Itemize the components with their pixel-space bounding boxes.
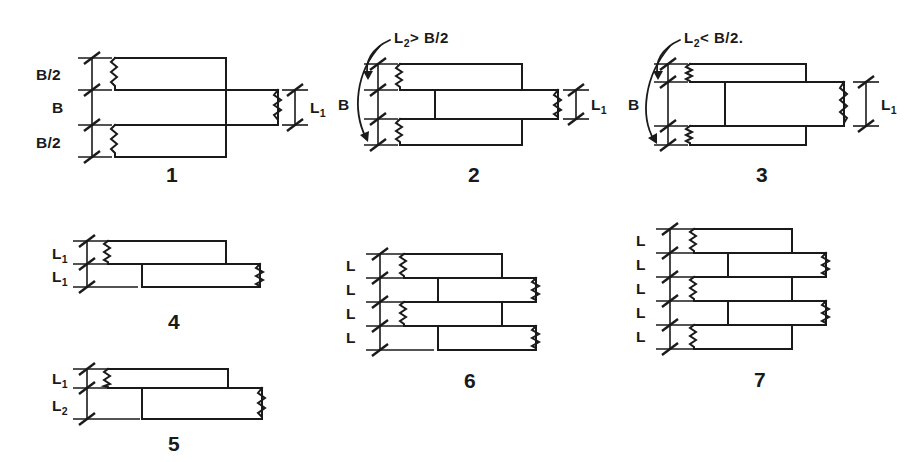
leader-arrows-2 bbox=[358, 40, 390, 142]
bar-middle-2 bbox=[435, 90, 561, 119]
dimension-L1-right-3 bbox=[853, 76, 879, 132]
bar-top-2 bbox=[396, 64, 522, 90]
label-L-6-4: L bbox=[346, 329, 356, 346]
label-L1-5: L1 bbox=[52, 370, 68, 390]
bar-bottom-4 bbox=[142, 264, 263, 287]
label-L-7-4: L bbox=[636, 304, 646, 321]
label-b: B bbox=[52, 99, 64, 116]
label-L-7-1: L bbox=[636, 232, 646, 249]
label-b-half-bottom: B/2 bbox=[36, 134, 61, 151]
label-L1-4-top: L1 bbox=[52, 245, 68, 265]
bar-6-3 bbox=[400, 302, 502, 326]
label-L-6-3: L bbox=[346, 305, 356, 322]
diagram-2: L2> B/2 B L1 2 bbox=[330, 10, 625, 205]
label-L-6-2: L bbox=[346, 281, 356, 298]
label-L-7-2: L bbox=[636, 256, 646, 273]
label-L1-2: L1 bbox=[591, 96, 607, 116]
bar-6-2 bbox=[438, 278, 539, 302]
label-L1: L1 bbox=[310, 99, 326, 119]
bar-7-4 bbox=[728, 301, 829, 325]
label-b-2: B bbox=[338, 96, 350, 113]
bar-bottom-3 bbox=[686, 126, 806, 145]
bar-7-5 bbox=[690, 325, 792, 349]
dimension-stack-left bbox=[78, 52, 112, 163]
diagram-7: L L L L L 7 bbox=[620, 215, 910, 410]
label-b-3: B bbox=[628, 96, 640, 113]
bar-bottom bbox=[111, 125, 226, 157]
diagram-number-7: 7 bbox=[754, 368, 766, 391]
diagram-5: L1 L2 5 bbox=[30, 355, 305, 460]
bar-top-4 bbox=[104, 241, 226, 264]
dimension-stack-left-5 bbox=[73, 363, 140, 425]
diagram-number-3: 3 bbox=[756, 163, 768, 186]
diagram-sheet: B/2 B B/2 L1 1 L2> B/2 B bbox=[0, 0, 921, 462]
dimension-stack-left-7 bbox=[656, 223, 694, 355]
bar-7-2 bbox=[728, 253, 829, 277]
label-L2-5: L2 bbox=[52, 397, 68, 417]
diagram-number-6: 6 bbox=[464, 369, 476, 392]
label-L-6-1: L bbox=[346, 257, 356, 274]
bar-6-1 bbox=[400, 254, 502, 278]
label-b-half-top: B/2 bbox=[36, 66, 61, 83]
dimension-L1-right bbox=[282, 84, 308, 131]
diagram-number-4: 4 bbox=[168, 310, 180, 333]
label-L-7-5: L bbox=[636, 328, 646, 345]
bar-bottom-2 bbox=[396, 119, 522, 145]
bar-bottom-5 bbox=[142, 388, 265, 419]
diagram-number-1: 1 bbox=[166, 163, 178, 186]
bar-middle bbox=[226, 90, 281, 125]
diagram-number-5: 5 bbox=[168, 432, 180, 455]
bar-top-3 bbox=[686, 64, 806, 82]
condition-label-3: L2< B/2. bbox=[684, 29, 743, 49]
diagram-4: L1 L1 4 bbox=[30, 225, 305, 355]
bar-top bbox=[111, 58, 226, 90]
label-L1-4-bottom: L1 bbox=[52, 268, 68, 288]
diagram-1: B/2 B B/2 L1 1 bbox=[30, 40, 320, 205]
diagram-6: L L L L 6 bbox=[330, 240, 610, 420]
bar-top-5 bbox=[104, 369, 228, 388]
diagram-3: L2< B/2. B L1 3 bbox=[620, 10, 915, 205]
bar-6-4 bbox=[438, 326, 539, 350]
condition-label-2: L2> B/2 bbox=[394, 29, 449, 49]
dimension-L1-right-2 bbox=[563, 84, 589, 125]
diagram-number-2: 2 bbox=[468, 163, 480, 186]
bar-7-3 bbox=[690, 277, 792, 301]
bar-middle-3 bbox=[725, 82, 847, 126]
label-L-7-3: L bbox=[636, 280, 646, 297]
bar-7-1 bbox=[690, 229, 792, 253]
label-L1-3: L1 bbox=[881, 96, 897, 116]
